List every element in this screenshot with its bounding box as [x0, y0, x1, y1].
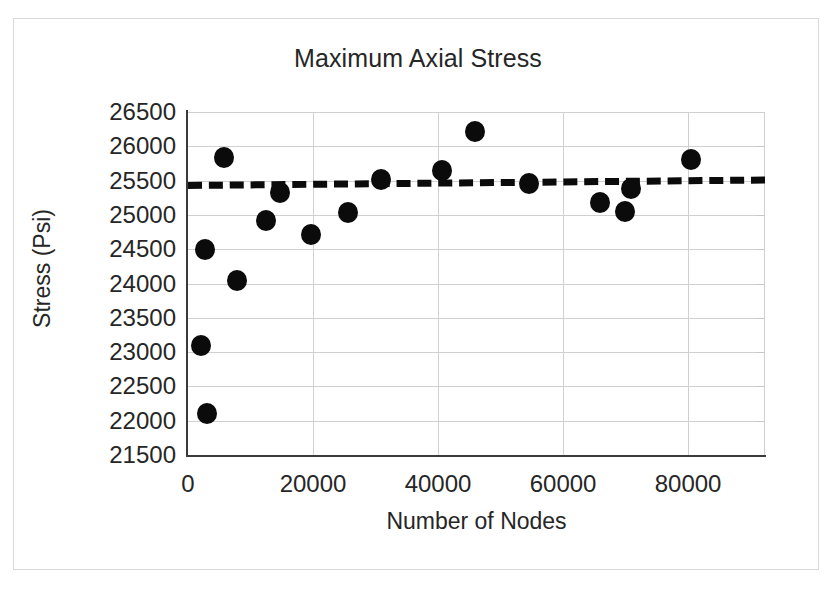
x-axis-spine: [186, 455, 766, 457]
y-tick-label-22500: 22500: [66, 374, 176, 398]
y-axis-tick-labels: 2150022000225002300023500240002450025000…: [58, 0, 176, 589]
y-axis-title: Stress (Psi): [29, 149, 56, 389]
y-tick-label-22000: 22000: [66, 409, 176, 433]
gridline-x-20000: [313, 112, 314, 455]
x-tick-label-0: 0: [181, 472, 194, 496]
y-tick-label-26500: 26500: [66, 100, 176, 124]
gridline-y-23000: [188, 352, 765, 353]
y-tick-label-25500: 25500: [66, 169, 176, 193]
data-point: [191, 335, 211, 356]
y-tick-label-24000: 24000: [66, 272, 176, 296]
y-tick-label-26000: 26000: [66, 134, 176, 158]
x-tick-label-80000: 80000: [655, 472, 722, 496]
data-point: [195, 239, 215, 260]
data-point: [256, 210, 276, 231]
gridline-y-22000: [188, 421, 765, 422]
tick-right-24500: [756, 249, 764, 250]
gridline-y-22500: [188, 386, 765, 387]
data-point: [214, 147, 234, 168]
tick-right-26000: [756, 146, 764, 147]
data-point: [227, 270, 247, 291]
data-point: [432, 160, 452, 181]
plot-top-edge: [188, 112, 765, 113]
gridline-x-60000: [563, 112, 564, 455]
x-tick-label-60000: 60000: [530, 472, 597, 496]
data-point: [590, 192, 610, 213]
plot-right-edge: [764, 112, 765, 455]
x-tick-label-40000: 40000: [405, 472, 472, 496]
tick-right-24000: [756, 284, 764, 285]
y-tick-label-24500: 24500: [66, 237, 176, 261]
chart-figure: Maximum Axial Stress 2150022000225002300…: [0, 0, 836, 589]
y-tick-label-23500: 23500: [66, 306, 176, 330]
plot-area: [188, 112, 765, 455]
tick-right-25000: [756, 215, 764, 216]
x-axis-title: Number of Nodes: [188, 508, 765, 535]
tick-right-23500: [756, 318, 764, 319]
data-point: [465, 121, 485, 142]
data-point: [681, 149, 701, 170]
y-tick-label-23000: 23000: [66, 340, 176, 364]
x-tick-label-20000: 20000: [280, 472, 347, 496]
gridline-y-24500: [188, 249, 765, 250]
trendline: [188, 176, 765, 188]
data-point: [338, 202, 358, 223]
gridline-y-26000: [188, 146, 765, 147]
tick-right-23000: [756, 352, 764, 353]
y-tick-label-25000: 25000: [66, 203, 176, 227]
y-tick-label-21500: 21500: [66, 443, 176, 467]
tick-right-22000: [756, 421, 764, 422]
tick-right-22500: [756, 386, 764, 387]
data-point: [615, 201, 635, 222]
gridline-y-24000: [188, 284, 765, 285]
gridline-y-23500: [188, 318, 765, 319]
data-point: [301, 224, 321, 245]
